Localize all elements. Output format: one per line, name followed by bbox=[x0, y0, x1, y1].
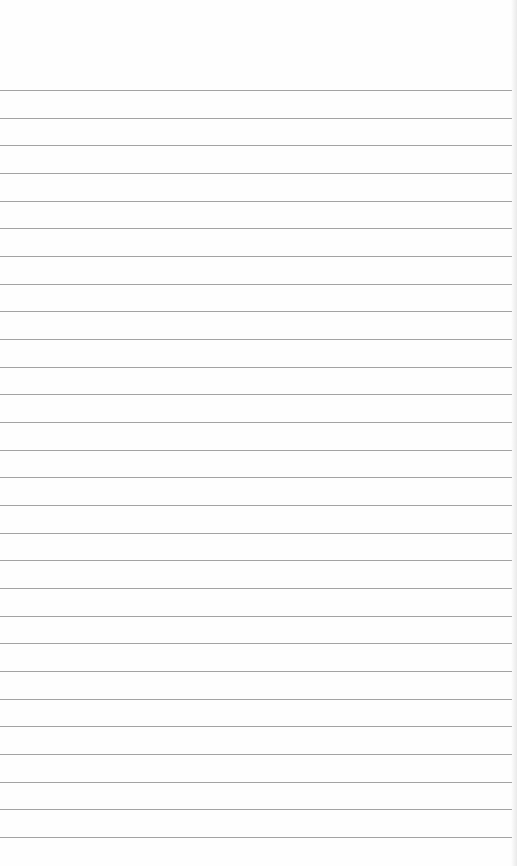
ruled-line bbox=[0, 616, 512, 617]
ruled-line bbox=[0, 699, 512, 700]
ruled-line bbox=[0, 450, 512, 451]
ruled-line bbox=[0, 726, 512, 727]
ruled-line bbox=[0, 90, 512, 91]
ruled-line bbox=[0, 367, 512, 368]
ruled-line bbox=[0, 311, 512, 312]
paper-edge-shadow bbox=[511, 0, 517, 866]
ruled-line bbox=[0, 173, 512, 174]
ruled-line bbox=[0, 477, 512, 478]
ruled-line bbox=[0, 422, 512, 423]
ruled-line bbox=[0, 228, 512, 229]
ruled-line bbox=[0, 284, 512, 285]
ruled-line bbox=[0, 201, 512, 202]
ruled-line bbox=[0, 809, 512, 810]
ruled-line bbox=[0, 560, 512, 561]
ruled-line bbox=[0, 505, 512, 506]
ruled-line bbox=[0, 643, 512, 644]
ruled-line bbox=[0, 256, 512, 257]
ruled-line bbox=[0, 118, 512, 119]
ruled-line bbox=[0, 754, 512, 755]
ruled-line bbox=[0, 837, 512, 838]
ruled-line bbox=[0, 394, 512, 395]
ruled-paper bbox=[0, 0, 517, 866]
ruled-line bbox=[0, 533, 512, 534]
ruled-line bbox=[0, 671, 512, 672]
ruled-line bbox=[0, 339, 512, 340]
ruled-line bbox=[0, 588, 512, 589]
ruled-line bbox=[0, 145, 512, 146]
ruled-line bbox=[0, 782, 512, 783]
